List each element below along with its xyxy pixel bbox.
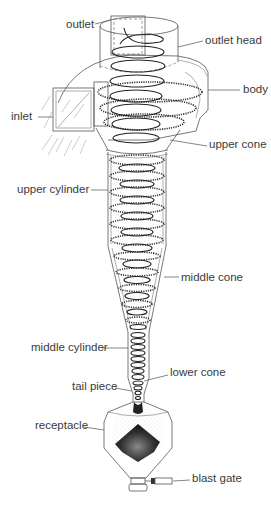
middle-cone-coils	[114, 244, 160, 330]
blast-gate-shape	[129, 478, 172, 491]
middle-cone-shape	[108, 246, 166, 332]
receptacle-shape	[104, 402, 172, 478]
inlet-shape	[42, 82, 108, 156]
body-shape	[58, 55, 208, 140]
label-tail-piece: tail piece	[72, 380, 117, 393]
label-outlet-head: outlet head	[205, 34, 262, 47]
label-upper-cylinder: upper cylinder	[17, 183, 89, 196]
label-middle-cone: middle cone	[181, 271, 243, 284]
label-middle-cylinder: middle cylinder	[31, 341, 108, 354]
label-receptacle: receptacle	[35, 419, 88, 432]
label-inlet: inlet	[11, 110, 32, 123]
label-outlet: outlet	[66, 18, 94, 31]
label-blast-gate: blast gate	[192, 472, 242, 485]
upper-cylinder-coils	[110, 155, 164, 245]
middle-cylinder-coils	[131, 333, 145, 400]
outlet-head-shape	[100, 17, 178, 72]
label-body: body	[243, 83, 268, 96]
label-lower-cone: lower cone	[170, 366, 226, 379]
upper-cylinder-shape	[108, 152, 166, 246]
label-upper-cone: upper cone	[209, 138, 267, 151]
